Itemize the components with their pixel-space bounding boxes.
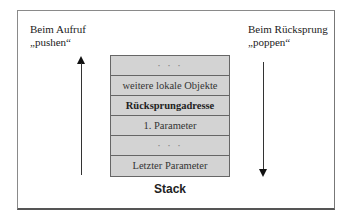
stack-box: · · · weitere lokale Objekte Rücksprunga… bbox=[110, 55, 230, 177]
stack-row-first-parameter: 1. Parameter bbox=[111, 116, 229, 136]
pop-label-line1: Beim Rücksprung bbox=[248, 23, 328, 36]
push-label-line1: Beim Aufruf bbox=[30, 23, 86, 36]
pop-arrow-line bbox=[263, 62, 264, 172]
stack-row-last-parameter: Letzter Parameter bbox=[111, 156, 229, 176]
pop-label: Beim Rücksprung „poppen“ bbox=[248, 23, 328, 49]
push-label: Beim Aufruf „pushen“ bbox=[30, 23, 86, 49]
stack-row-ellipsis-middle: · · · bbox=[111, 136, 229, 156]
push-arrow-line bbox=[81, 63, 82, 175]
stack-title: Stack bbox=[110, 182, 230, 196]
stack-row-return-address: Rücksprungadresse bbox=[111, 96, 229, 116]
push-label-line2: „pushen“ bbox=[30, 36, 86, 49]
stack-row-ellipsis-top: · · · bbox=[111, 56, 229, 76]
stack-row-local-objects: weitere lokale Objekte bbox=[111, 76, 229, 96]
pop-label-line2: „poppen“ bbox=[248, 36, 328, 49]
pop-arrow-down-icon bbox=[259, 169, 267, 177]
